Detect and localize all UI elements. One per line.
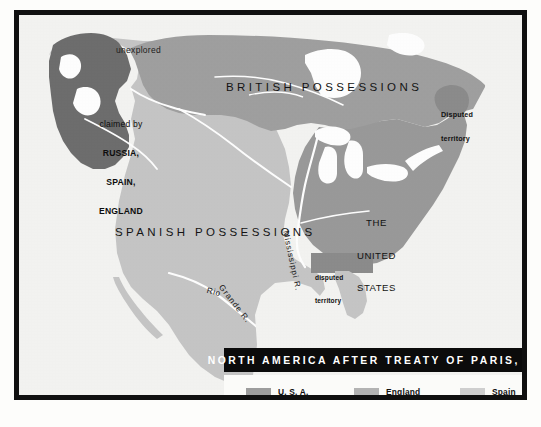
map-page: unexplored BRITISH POSSESSIONS claimed b… (0, 0, 541, 427)
map-frame: unexplored BRITISH POSSESSIONS claimed b… (14, 10, 527, 400)
legend-swatch-spain (460, 388, 485, 397)
map-legend: U. S. A. England Spain (224, 375, 527, 400)
legend-label-usa: U. S. A. (278, 387, 309, 397)
north-america-map-graphic (19, 15, 522, 395)
map-title-text: NORTH AMERICA AFTER TREATY OF PARIS, 178… (208, 355, 527, 366)
legend-swatch-england (354, 388, 379, 397)
map-title-banner: NORTH AMERICA AFTER TREATY OF PARIS, 178… (224, 348, 527, 372)
map-canvas (19, 15, 522, 395)
legend-label-spain: Spain (492, 387, 516, 397)
legend-item-usa: U. S. A. (246, 387, 309, 397)
legend-item-spain: Spain (460, 387, 516, 397)
disputed-territory-southeast-patch (311, 253, 373, 273)
legend-label-england: England (386, 387, 420, 397)
legend-swatch-usa (246, 388, 271, 397)
legend-item-england: England (354, 387, 420, 397)
